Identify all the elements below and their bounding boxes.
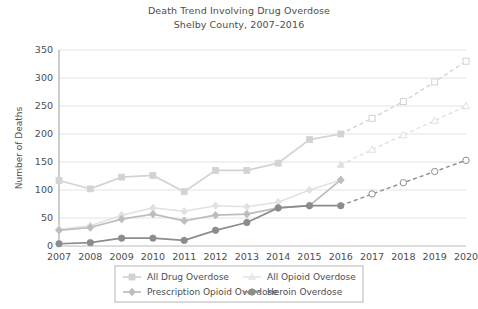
data-point-marker bbox=[244, 219, 250, 225]
data-point-marker bbox=[369, 115, 375, 121]
x-axis-tick-label: 2020 bbox=[454, 251, 478, 262]
x-axis-tick-label: 2018 bbox=[391, 251, 415, 262]
data-point-marker bbox=[306, 137, 312, 143]
y-axis-tick-label: 350 bbox=[35, 44, 53, 55]
data-point-marker bbox=[150, 235, 156, 241]
data-point-marker bbox=[275, 205, 281, 211]
x-axis-tick-label: 2014 bbox=[266, 251, 290, 262]
data-point-marker bbox=[338, 202, 344, 208]
y-axis-tick-label: 150 bbox=[35, 156, 53, 167]
data-point-marker bbox=[463, 58, 469, 64]
data-point-marker bbox=[306, 202, 312, 208]
x-axis-tick-label: 2017 bbox=[360, 251, 384, 262]
data-point-marker bbox=[119, 174, 125, 180]
data-point-marker bbox=[431, 168, 437, 174]
data-point-marker bbox=[56, 177, 62, 183]
data-point-marker bbox=[243, 203, 250, 211]
series-line-projected bbox=[341, 61, 466, 134]
data-point-marker bbox=[129, 274, 135, 280]
data-point-marker bbox=[400, 180, 406, 186]
x-axis-tick-label: 2008 bbox=[78, 251, 102, 262]
y-axis-tick-label: 50 bbox=[41, 212, 53, 223]
data-point-marker bbox=[463, 157, 469, 163]
legend-item-label: All Drug Overdose bbox=[147, 272, 229, 282]
series-line-observed bbox=[59, 134, 341, 192]
data-point-marker bbox=[306, 186, 313, 194]
data-point-marker bbox=[87, 239, 93, 245]
data-point-marker bbox=[249, 289, 255, 295]
y-axis-tick-label: 250 bbox=[35, 100, 53, 111]
x-axis-tick-label: 2019 bbox=[423, 251, 447, 262]
series-all-opioid-overdose bbox=[337, 102, 469, 167]
data-point-marker bbox=[212, 227, 218, 233]
x-axis-tick-label: 2010 bbox=[141, 251, 165, 262]
y-axis-tick-label: 0 bbox=[47, 240, 53, 251]
series-heroin-overdose bbox=[56, 157, 469, 247]
data-point-marker bbox=[243, 210, 250, 218]
data-point-marker bbox=[181, 189, 187, 195]
data-point-marker bbox=[118, 235, 124, 241]
data-point-marker bbox=[432, 79, 438, 85]
data-point-marker bbox=[181, 237, 187, 243]
y-axis-title: Number of Deaths bbox=[14, 106, 24, 189]
y-axis-tick-label: 300 bbox=[35, 72, 53, 83]
data-point-marker bbox=[150, 210, 157, 218]
data-point-marker bbox=[275, 160, 281, 166]
chart-container: Death Trend Involving Drug Overdose Shel… bbox=[0, 0, 478, 309]
x-axis-tick-label: 2012 bbox=[203, 251, 227, 262]
chart-svg: 050100150200250300350Number of Deaths200… bbox=[0, 0, 478, 309]
y-axis-tick-label: 200 bbox=[35, 128, 53, 139]
chart-legend: All Drug OverdoseAll Opioid OverdosePres… bbox=[115, 266, 363, 302]
x-axis-tick-label: 2013 bbox=[235, 251, 259, 262]
y-axis-tick-label: 100 bbox=[35, 184, 53, 195]
data-point-marker bbox=[87, 186, 93, 192]
x-axis-tick-label: 2007 bbox=[47, 251, 71, 262]
data-point-marker bbox=[338, 131, 344, 137]
data-point-marker bbox=[150, 172, 156, 178]
series-line bbox=[59, 180, 341, 229]
data-point-marker bbox=[400, 99, 406, 105]
series-all-drug-overdose bbox=[56, 58, 469, 194]
data-point-marker bbox=[181, 207, 188, 215]
legend-item-label: All Opioid Overdose bbox=[267, 272, 356, 282]
data-point-marker bbox=[212, 202, 219, 210]
legend-item-label: Heroin Overdose bbox=[267, 287, 343, 297]
data-point-marker bbox=[56, 241, 62, 247]
data-point-marker bbox=[462, 102, 469, 108]
x-axis-tick-label: 2011 bbox=[172, 251, 196, 262]
data-point-marker bbox=[369, 191, 375, 197]
x-axis-tick-label: 2015 bbox=[297, 251, 321, 262]
data-point-marker bbox=[244, 167, 250, 173]
x-axis-tick-label: 2009 bbox=[110, 251, 134, 262]
x-axis-tick-label: 2016 bbox=[329, 251, 353, 262]
data-point-marker bbox=[213, 167, 219, 173]
